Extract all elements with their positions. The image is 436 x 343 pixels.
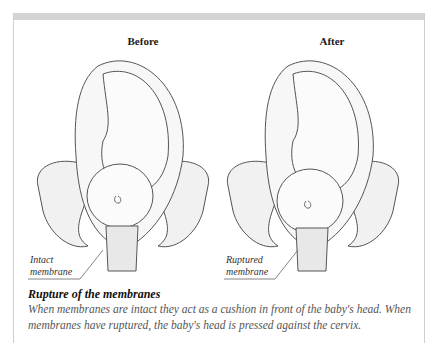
caption-title: Rupture of the membranes [28, 287, 160, 302]
label-line2: membrane [30, 266, 72, 278]
label-intact-membrane: Intact membrane [30, 254, 72, 278]
label-line1: Intact [30, 254, 72, 266]
label-ruptured-membrane: Ruptured membrane [226, 254, 268, 278]
label-line2: membrane [226, 266, 268, 278]
caption-body: When membranes are intact they act as a … [28, 301, 413, 333]
label-line1: Ruptured [226, 254, 268, 266]
